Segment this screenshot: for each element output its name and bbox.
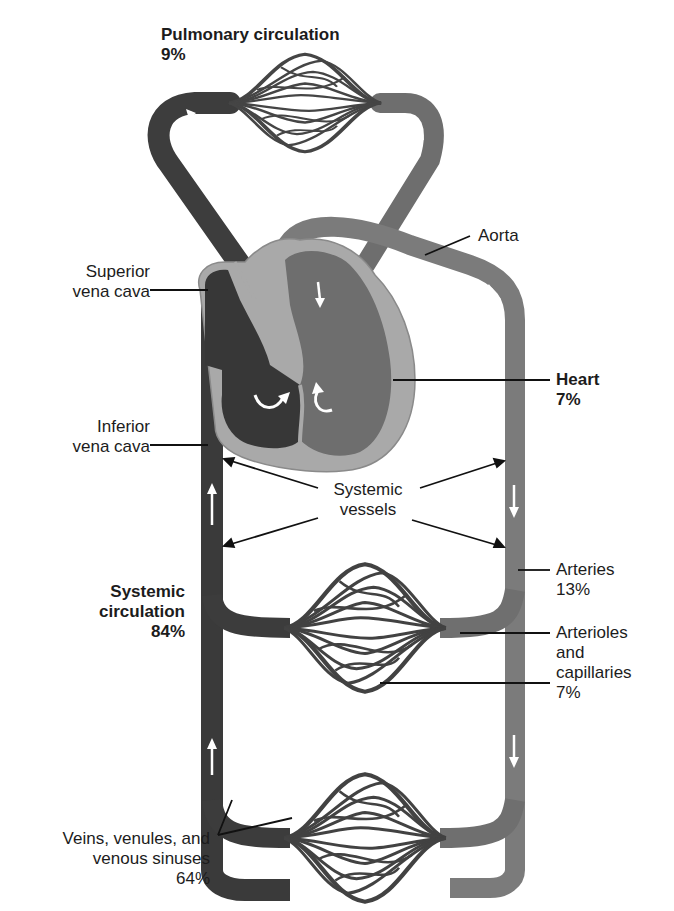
veins-venules-label: Veins, venules, and venous sinuses 64% bbox=[10, 829, 210, 889]
pulmonary-circulation-label: Pulmonary circulation 9% bbox=[161, 25, 340, 65]
heart-label: Heart 7% bbox=[556, 370, 599, 410]
superior-vena-cava-label: Superior vena cava bbox=[50, 262, 150, 302]
aorta-label: Aorta bbox=[478, 226, 519, 246]
heart bbox=[199, 239, 415, 472]
arteries-label: Arteries 13% bbox=[556, 560, 615, 600]
systemic-vessels-label: Systemic vessels bbox=[318, 480, 418, 520]
inferior-vena-cava-label: Inferior vena cava bbox=[50, 417, 150, 457]
systemic-circulation-label: Systemic circulation 84% bbox=[60, 582, 185, 642]
upper-capillary-bed bbox=[212, 564, 515, 692]
arterioles-capillaries-label: Arterioles and capillaries 7% bbox=[556, 623, 632, 703]
